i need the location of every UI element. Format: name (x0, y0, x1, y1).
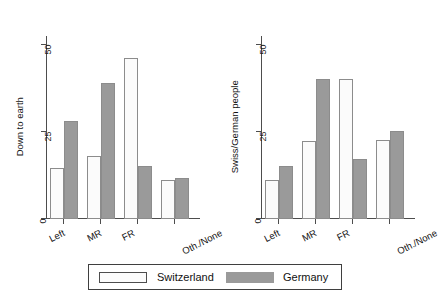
x-tick-label-fr: FR (120, 228, 136, 242)
chart-panel-swiss-german-people: 50 25 0 Swiss/German people Left MR FR O… (215, 0, 429, 255)
x-tick-label-mr: MR (86, 228, 103, 243)
x-tick-mr (100, 219, 101, 224)
bar-switzerland-mr (302, 141, 316, 219)
bar-germany-left (279, 166, 293, 219)
y-axis-title: Swiss/German people (230, 72, 240, 182)
bar-switzerland-mr (87, 156, 101, 219)
legend: Switzerland Germany (88, 264, 342, 290)
bar-switzerland-fr (339, 79, 353, 219)
bar-switzerland-left (50, 168, 64, 219)
bar-germany-fr (353, 159, 367, 219)
bar-switzerland-other (161, 180, 175, 219)
x-tick-mr (315, 219, 316, 224)
x-tick-left (63, 219, 64, 224)
x-tick-label-mr: MR (301, 228, 318, 243)
bar-germany-left (64, 121, 78, 219)
y-axis-title: Down to earth (15, 72, 25, 182)
y-tick-label-0: 0 (254, 219, 263, 224)
x-tick-label-other: Oth./None (396, 228, 439, 256)
legend-swatch-switzerland (99, 272, 147, 283)
x-tick-label-left: Left (263, 228, 281, 244)
y-tick-label-25: 25 (259, 132, 268, 142)
y-axis-line (46, 36, 47, 219)
bar-germany-fr (138, 166, 152, 219)
legend-label-switzerland: Switzerland (157, 270, 214, 284)
x-tick-fr (352, 219, 353, 224)
y-tick-label-0: 0 (39, 219, 48, 224)
x-tick-fr (137, 219, 138, 224)
x-tick-other (389, 219, 390, 224)
x-tick-other (174, 219, 175, 224)
bar-germany-mr (316, 79, 330, 219)
x-tick-left (278, 219, 279, 224)
x-tick-label-left: Left (48, 228, 66, 244)
y-tick-label-50: 50 (44, 45, 53, 55)
bar-germany-mr (101, 83, 115, 219)
bar-switzerland-fr (124, 58, 138, 219)
y-tick-label-25: 25 (44, 132, 53, 142)
chart-panel-down-to-earth: 50 25 0 Down to earth Left MR FR Oth./No… (0, 0, 214, 255)
legend-label-germany: Germany (283, 270, 328, 284)
bar-germany-other (175, 178, 189, 219)
y-tick-label-50: 50 (259, 45, 268, 55)
legend-swatch-germany (226, 272, 274, 283)
bar-switzerland-other (376, 140, 390, 219)
x-tick-label-fr: FR (335, 228, 351, 242)
bar-germany-other (390, 131, 404, 219)
bar-switzerland-left (265, 180, 279, 219)
y-axis-line (261, 36, 262, 219)
